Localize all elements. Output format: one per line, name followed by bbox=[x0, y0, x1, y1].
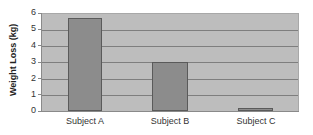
x-tick-label: Subject C bbox=[221, 116, 291, 126]
y-tick-label: 2 bbox=[28, 73, 36, 83]
y-tick-label: 1 bbox=[28, 89, 36, 99]
x-tick-label: Subject A bbox=[50, 116, 120, 126]
y-tick-label: 6 bbox=[28, 7, 36, 17]
y-tick-label: 5 bbox=[28, 23, 36, 33]
y-tick bbox=[38, 78, 42, 79]
y-tick bbox=[38, 13, 42, 14]
x-tick-label: Subject B bbox=[135, 116, 205, 126]
y-tick-label: 0 bbox=[28, 105, 36, 115]
y-tick bbox=[38, 29, 42, 30]
y-tick bbox=[38, 62, 42, 63]
y-tick-label: 4 bbox=[28, 40, 36, 50]
y-tick-label: 3 bbox=[28, 56, 36, 66]
y-tick bbox=[38, 45, 42, 46]
y-axis-title: Weight Loss (kg) bbox=[8, 26, 18, 96]
y-tick bbox=[38, 111, 42, 112]
y-tick bbox=[38, 94, 42, 95]
x-axis bbox=[41, 111, 299, 112]
bar-subject-a bbox=[68, 18, 102, 111]
bar-subject-b bbox=[152, 62, 188, 111]
bar-subject-c bbox=[238, 108, 273, 111]
bar-chart: 6 5 4 3 2 1 0 Weight Loss (kg) Subject A… bbox=[0, 0, 313, 135]
